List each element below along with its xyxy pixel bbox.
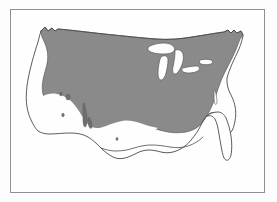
lake-ontario: [199, 59, 212, 65]
interior-lake-north: [60, 92, 63, 96]
map-figure: Map of the contiguous United States Outl…: [0, 0, 277, 202]
great-salt-lake: [66, 94, 70, 100]
interior-lake-plains: [116, 138, 118, 141]
united-states-map: [0, 0, 277, 202]
florida-peninsula: [207, 112, 232, 160]
interior-lake-south: [62, 113, 65, 117]
